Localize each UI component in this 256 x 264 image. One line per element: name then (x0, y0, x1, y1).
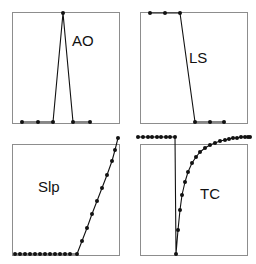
data-point-marker (203, 146, 207, 150)
panel-tc: TC (128, 132, 256, 264)
panel-ls: LS (128, 0, 256, 132)
data-point-marker (95, 199, 99, 203)
data-point-marker (227, 137, 231, 141)
data-point-marker (213, 141, 217, 145)
data-point-marker (174, 252, 178, 256)
data-point-marker (116, 136, 120, 140)
data-point-marker (38, 252, 42, 256)
data-point-marker (168, 135, 172, 139)
data-point-marker (178, 208, 182, 212)
panel-ao: AO (0, 0, 128, 132)
data-point-marker (36, 120, 40, 124)
data-point-marker (190, 161, 194, 165)
data-point-marker (239, 135, 243, 139)
data-point-marker (58, 252, 62, 256)
data-point-marker (80, 239, 84, 243)
data-point-marker (20, 120, 24, 124)
data-point-marker (113, 148, 117, 152)
data-point-marker (173, 135, 177, 139)
panel-slp-plot: Slp (0, 132, 128, 264)
panel-ls-frame (141, 13, 248, 124)
panel-tc-frame (141, 145, 248, 256)
data-point-marker (183, 180, 187, 184)
data-point-marker (178, 11, 182, 15)
data-point-marker (136, 135, 140, 139)
multi-panel-figure: AO LS Slp (0, 0, 256, 264)
panel-ls-label: LS (189, 49, 207, 66)
data-point-marker (85, 226, 89, 230)
panel-tc-label: TC (200, 185, 220, 202)
data-point-marker (186, 170, 190, 174)
data-point-marker (248, 135, 252, 139)
data-point-marker (235, 136, 239, 140)
data-point-marker (110, 159, 114, 163)
data-point-marker (164, 135, 168, 139)
data-point-marker (51, 120, 55, 124)
data-point-marker (198, 150, 202, 154)
data-point-marker (48, 252, 52, 256)
panel-ao-plot: AO (0, 0, 128, 132)
data-point-marker (63, 252, 67, 256)
panel-ls-plot: LS (128, 0, 256, 132)
data-point-marker (150, 135, 154, 139)
data-point-marker (23, 252, 27, 256)
data-point-marker (163, 11, 167, 15)
data-point-marker (100, 186, 104, 190)
data-point-marker (18, 252, 22, 256)
data-point-marker (105, 173, 109, 177)
data-point-marker (75, 252, 79, 256)
data-point-marker (155, 135, 159, 139)
data-point-marker (231, 136, 235, 140)
data-point-marker (208, 120, 212, 124)
panel-tc-plot: TC (128, 132, 256, 264)
data-point-marker (194, 155, 198, 159)
panel-slp: Slp (0, 132, 128, 264)
data-point-marker (71, 120, 75, 124)
data-point-marker (180, 193, 184, 197)
data-point-marker (141, 135, 145, 139)
panel-slp-label: Slp (38, 178, 60, 195)
data-point-marker (53, 252, 57, 256)
panel-slp-frame (13, 145, 120, 256)
data-point-marker (146, 135, 150, 139)
data-point-marker (159, 135, 163, 139)
data-point-marker (223, 138, 227, 142)
data-point-marker (208, 143, 212, 147)
panel-ao-label: AO (72, 32, 94, 49)
data-point-marker (222, 120, 226, 124)
data-point-marker (148, 11, 152, 15)
data-point-marker (176, 228, 180, 232)
data-point-marker (90, 212, 94, 216)
panel-ao-frame (13, 13, 120, 124)
panel-grid: AO LS Slp (0, 0, 256, 264)
data-point-marker (13, 252, 17, 256)
data-point-marker (68, 252, 72, 256)
data-point-marker (218, 139, 222, 143)
data-point-marker (88, 120, 92, 124)
data-point-marker (61, 11, 65, 15)
data-point-marker (193, 120, 197, 124)
data-point-marker (33, 252, 37, 256)
data-point-marker (43, 252, 47, 256)
data-point-marker (28, 252, 32, 256)
